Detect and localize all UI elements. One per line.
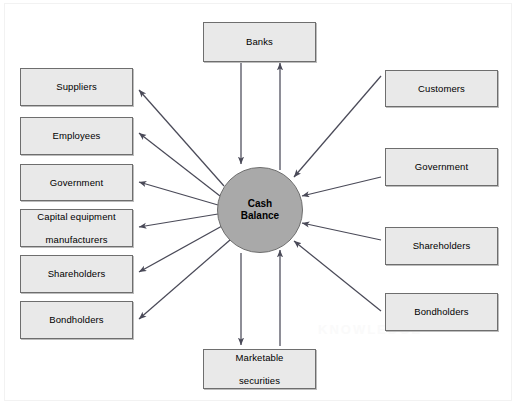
node-banks[interactable]: Banks bbox=[203, 22, 316, 62]
node-employees-label: Employees bbox=[50, 130, 104, 142]
node-customers-label: Customers bbox=[415, 83, 468, 95]
node-bondholders-right-label: Bondholders bbox=[411, 306, 471, 318]
arrow-to-capital-equipment bbox=[139, 214, 218, 227]
node-government-left[interactable]: Government bbox=[20, 164, 133, 201]
cash-balance-label-line2: Balance bbox=[241, 210, 279, 221]
node-government-left-label: Government bbox=[47, 177, 106, 189]
node-marketable-securities-label-line1: Marketable bbox=[233, 352, 287, 364]
node-government-right[interactable]: Government bbox=[385, 148, 498, 186]
node-customers[interactable]: Customers bbox=[385, 70, 498, 107]
node-shareholders-right[interactable]: Shareholders bbox=[385, 227, 498, 265]
node-marketable-securities[interactable]: Marketable securities bbox=[203, 349, 316, 389]
node-capital-equipment-label-line1: Capital equipment bbox=[34, 211, 118, 223]
arrow-from-customers bbox=[294, 76, 381, 177]
arrow-from-bondholders-right bbox=[294, 241, 381, 311]
arrow-to-employees bbox=[139, 133, 220, 196]
node-bondholders-left[interactable]: Bondholders bbox=[20, 301, 133, 339]
node-bondholders-left-label: Bondholders bbox=[46, 314, 106, 326]
cash-balance-label-line1: Cash bbox=[248, 198, 272, 209]
node-cash-balance[interactable]: Cash Balance bbox=[217, 167, 303, 253]
node-shareholders-right-label: Shareholders bbox=[410, 240, 474, 252]
arrow-to-shareholders-left bbox=[139, 226, 222, 272]
node-suppliers-label: Suppliers bbox=[53, 81, 100, 93]
arrow-to-bondholders-left bbox=[139, 240, 230, 319]
node-bondholders-right[interactable]: Bondholders bbox=[385, 293, 498, 331]
arrow-from-shareholders-right bbox=[302, 223, 381, 240]
node-government-right-label: Government bbox=[412, 161, 471, 173]
node-marketable-securities-label-line2: securities bbox=[233, 375, 287, 387]
arrow-from-government-right bbox=[302, 177, 381, 196]
node-banks-label: Banks bbox=[243, 36, 276, 48]
diagram-canvas: KNOWLEDGE Banks Suppliers Employees Gove… bbox=[0, 0, 517, 405]
node-shareholders-left-label: Shareholders bbox=[45, 268, 109, 280]
node-suppliers[interactable]: Suppliers bbox=[20, 68, 133, 106]
node-capital-equipment-manufacturers[interactable]: Capital equipment manufacturers bbox=[20, 209, 133, 247]
node-capital-equipment-label-line2: manufacturers bbox=[34, 234, 118, 246]
arrow-to-suppliers bbox=[139, 90, 224, 186]
node-shareholders-left[interactable]: Shareholders bbox=[20, 255, 133, 293]
node-employees[interactable]: Employees bbox=[20, 117, 133, 155]
